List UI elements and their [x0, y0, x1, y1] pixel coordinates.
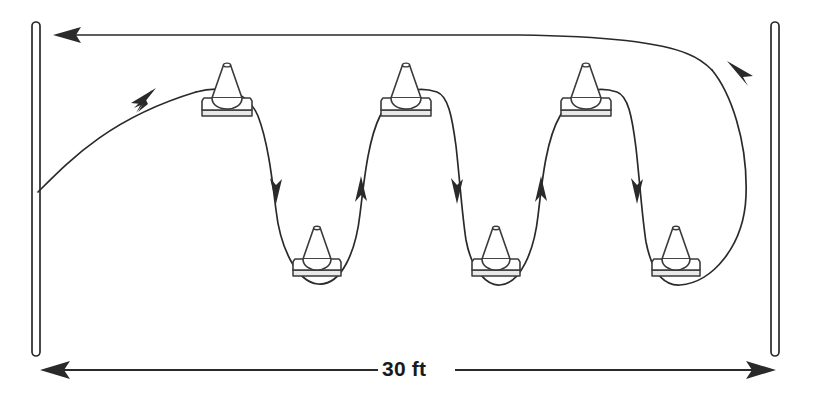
cone-bottom-2 — [472, 226, 520, 276]
start-post-left — [32, 22, 40, 356]
return-path-segment — [60, 35, 712, 70]
diagram-canvas — [0, 0, 813, 400]
travel-path-group — [38, 35, 746, 285]
arrow-up-1-icon — [355, 176, 367, 202]
arrow-down-1-icon — [270, 178, 282, 204]
arrow-up-2-icon — [535, 176, 547, 202]
cone-group — [202, 63, 700, 276]
dimension-label: 30 ft — [382, 358, 426, 379]
arrow-turn-right-icon — [727, 61, 753, 86]
cone-bottom-3 — [652, 226, 700, 276]
entry-path-segment — [38, 92, 196, 192]
arrow-entry-icon-solid — [131, 88, 156, 113]
slalom-drill-diagram: 30 ft — [0, 0, 813, 400]
finish-post-right — [771, 22, 779, 356]
cone-bottom-1 — [293, 226, 341, 276]
